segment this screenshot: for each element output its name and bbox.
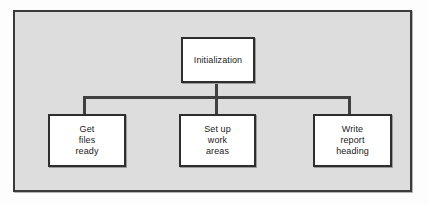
screenshot-canvas: Initialization Get files ready Set up wo… [0, 0, 428, 205]
node-write-report-heading-label: Write report heading [336, 124, 369, 157]
node-set-up-work-areas-label: Set up work areas [204, 124, 231, 157]
connector-drop-right [348, 96, 351, 114]
connector-drop-middle [215, 96, 218, 114]
node-get-files-ready-label: Get files ready [75, 124, 98, 157]
node-get-files-ready[interactable]: Get files ready [48, 114, 126, 167]
node-set-up-work-areas[interactable]: Set up work areas [179, 114, 256, 167]
node-write-report-heading[interactable]: Write report heading [313, 114, 392, 167]
node-initialization[interactable]: Initialization [181, 37, 255, 83]
connector-drop-left [83, 96, 86, 114]
node-initialization-label: Initialization [194, 55, 242, 66]
diagram-frame: Initialization Get files ready Set up wo… [13, 10, 412, 192]
